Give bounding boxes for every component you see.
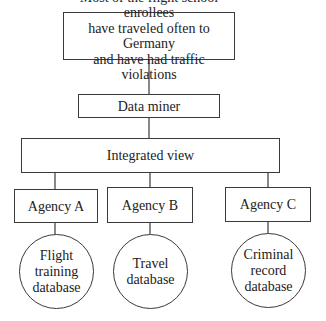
agency-b-box: Agency B xyxy=(107,187,193,223)
conclusion-label: Most of the flight school enrollees have… xyxy=(64,0,234,83)
agency-a-box: Agency A xyxy=(14,189,98,223)
flight-training-database-label: Flight training database xyxy=(32,248,80,296)
agency-c-box: Agency C xyxy=(225,187,311,222)
data-miner-box: Data miner xyxy=(78,94,220,118)
agency-a-label: Agency A xyxy=(28,198,84,215)
flight-training-database: Flight training database xyxy=(19,234,94,309)
data-miner-label: Data miner xyxy=(118,98,181,115)
conclusion-box: Most of the flight school enrollees have… xyxy=(63,12,235,60)
agency-b-label: Agency B xyxy=(122,197,178,214)
travel-database: Travel database xyxy=(113,234,188,309)
criminal-record-database: Criminal record database xyxy=(231,233,306,308)
agency-c-label: Agency C xyxy=(240,196,296,213)
criminal-record-database-label: Criminal record database xyxy=(244,247,294,295)
travel-database-label: Travel database xyxy=(126,256,174,288)
integrated-view-box: Integrated view xyxy=(21,138,280,173)
integrated-view-label: Integrated view xyxy=(107,147,194,164)
